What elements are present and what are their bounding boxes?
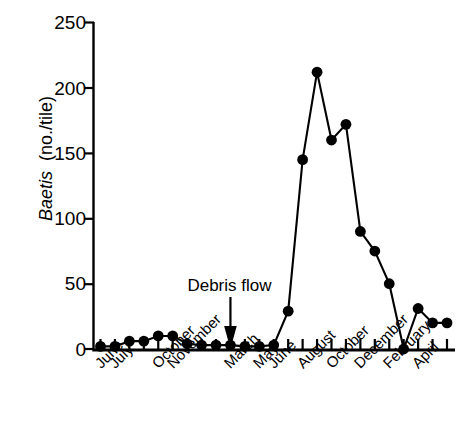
data-point (153, 331, 164, 342)
debris-flow-arrow-icon (224, 297, 237, 349)
data-point (297, 154, 308, 165)
data-point (326, 135, 337, 146)
plot-area (0, 0, 466, 439)
data-point (312, 67, 323, 78)
data-point (413, 303, 424, 314)
data-point (283, 306, 294, 317)
data-point (442, 317, 453, 328)
data-point (138, 336, 149, 347)
data-point (355, 226, 366, 237)
data-point (369, 246, 380, 257)
chart-figure: 250 200 150 100 50 0 Baetis (no./tile) D… (0, 0, 466, 439)
data-series-line (101, 72, 448, 349)
data-point (384, 278, 395, 289)
data-point (341, 119, 352, 130)
data-point (211, 340, 222, 351)
